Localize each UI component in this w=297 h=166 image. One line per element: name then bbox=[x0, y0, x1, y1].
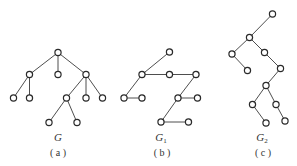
tree-edge bbox=[30, 53, 59, 75]
tree-node bbox=[74, 119, 80, 125]
tree-edge bbox=[250, 14, 273, 38]
tree-edge bbox=[67, 75, 87, 99]
tree-node bbox=[63, 95, 69, 101]
tree-node bbox=[273, 101, 279, 107]
graph-g2-label: G2 bbox=[256, 131, 268, 145]
tree-node bbox=[277, 65, 283, 71]
tree-node bbox=[139, 71, 145, 77]
tree-node bbox=[263, 120, 269, 126]
tree-node bbox=[261, 49, 267, 55]
tree-node bbox=[244, 67, 250, 73]
tree-node bbox=[282, 118, 288, 124]
tree-edge bbox=[58, 53, 86, 75]
tree-node bbox=[249, 101, 255, 107]
tree-node bbox=[121, 95, 127, 101]
caption-b: ( b ) bbox=[154, 147, 171, 159]
tree-node bbox=[194, 95, 200, 101]
graph-g: G ( a ) bbox=[10, 49, 105, 159]
tree-node bbox=[99, 95, 105, 101]
tree-edge bbox=[178, 75, 196, 99]
tree-node bbox=[158, 119, 164, 125]
tree-node bbox=[175, 95, 181, 101]
tree-edge bbox=[67, 98, 78, 123]
tree-node bbox=[55, 49, 61, 55]
tree-node bbox=[26, 71, 32, 77]
graph-g2: G2 ( c ) bbox=[229, 11, 288, 159]
tree-node bbox=[55, 71, 61, 77]
tree-node bbox=[10, 95, 16, 101]
tree-edge bbox=[161, 98, 178, 122]
tree-node bbox=[229, 51, 235, 57]
tree-edge bbox=[142, 52, 170, 75]
tree-node bbox=[263, 82, 269, 88]
graph-g-label: G bbox=[54, 131, 62, 143]
tree-edge bbox=[124, 75, 142, 99]
tree-node bbox=[139, 95, 145, 101]
tree-node bbox=[46, 119, 52, 125]
tree-node bbox=[83, 95, 89, 101]
tree-edge bbox=[86, 75, 103, 99]
tree-edge bbox=[14, 75, 30, 99]
tree-edge bbox=[49, 98, 67, 123]
graph-g1-label: G1 bbox=[155, 131, 167, 145]
graph-g1: G1 ( b ) bbox=[121, 49, 201, 159]
graph-g1-edges bbox=[124, 52, 198, 122]
tree-node bbox=[246, 34, 252, 40]
tree-node bbox=[26, 95, 32, 101]
tree-node bbox=[269, 11, 275, 17]
tree-diagram: G ( a ) G1 ( b ) G2 ( c ) bbox=[0, 0, 297, 166]
tree-node bbox=[166, 49, 172, 55]
tree-node bbox=[193, 71, 199, 77]
graph-g-edges bbox=[14, 53, 103, 123]
tree-node bbox=[83, 71, 89, 77]
tree-node bbox=[185, 119, 191, 125]
caption-a: ( a ) bbox=[50, 147, 66, 159]
caption-c: ( c ) bbox=[255, 147, 271, 159]
tree-node bbox=[166, 71, 172, 77]
